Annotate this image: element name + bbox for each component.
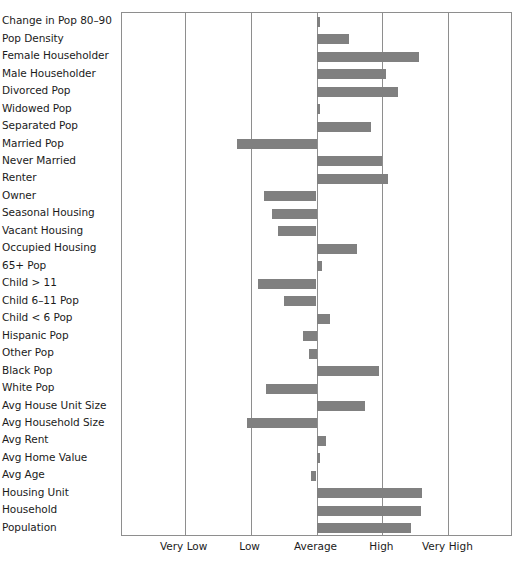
tick-label: High	[369, 539, 393, 553]
bar	[317, 523, 412, 533]
bar	[317, 436, 327, 446]
category-label: Child > 11	[2, 276, 114, 288]
bar	[317, 156, 383, 166]
tick-label: Very High	[422, 539, 473, 553]
bar	[317, 366, 380, 376]
category-label: Widowed Pop	[2, 102, 114, 114]
category-label: White Pop	[2, 381, 114, 393]
tick-label: Very Low	[160, 539, 207, 553]
bar	[317, 506, 422, 516]
bar	[317, 69, 386, 79]
bar	[303, 331, 317, 341]
category-label: Never Married	[2, 154, 114, 166]
bar	[317, 261, 323, 271]
category-label: Child 6–11 Pop	[2, 294, 114, 306]
category-label: Pop Density	[2, 32, 114, 44]
category-label: Child < 6 Pop	[2, 311, 114, 323]
category-label: Married Pop	[2, 137, 114, 149]
bar	[317, 314, 331, 324]
gridline-low	[251, 13, 252, 535]
bar	[266, 384, 316, 394]
bar	[264, 191, 316, 201]
bar	[309, 349, 317, 359]
bar	[311, 471, 317, 481]
category-label: Other Pop	[2, 346, 114, 358]
category-label: Owner	[2, 189, 114, 201]
category-label: Male Householder	[2, 67, 114, 79]
bar	[317, 244, 358, 254]
bar	[317, 453, 321, 463]
bar	[284, 296, 317, 306]
bar	[317, 104, 320, 114]
bar	[317, 17, 320, 27]
gridline-very-high	[448, 13, 449, 535]
category-label: 65+ Pop	[2, 259, 114, 271]
category-label: Hispanic Pop	[2, 329, 114, 341]
bar	[237, 139, 317, 149]
category-label: Avg House Unit Size	[2, 399, 114, 411]
category-label: Avg Household Size	[2, 416, 114, 428]
value-axis-tick-labels: Very LowLowAverageHighVery High	[121, 539, 512, 561]
category-label: Change in Pop 80–90	[2, 14, 114, 26]
bar	[317, 52, 420, 62]
category-label: Black Pop	[2, 364, 114, 376]
category-label: Avg Home Value	[2, 451, 114, 463]
chart-root: Change in Pop 80–90Pop DensityFemale Hou…	[0, 0, 522, 572]
bar	[278, 226, 317, 236]
bar	[247, 418, 317, 428]
category-label: Separated Pop	[2, 119, 114, 131]
category-label: Female Householder	[2, 49, 114, 61]
bar	[272, 209, 317, 219]
category-label: Seasonal Housing	[2, 206, 114, 218]
gridline-very-low	[185, 13, 186, 535]
tick-label: Low	[239, 539, 260, 553]
category-label: Avg Age	[2, 468, 114, 480]
bar	[317, 488, 422, 498]
category-label: Vacant Housing	[2, 224, 114, 236]
category-label: Household	[2, 503, 114, 515]
bar	[317, 34, 350, 44]
bar	[317, 174, 389, 184]
category-label: Population	[2, 521, 114, 533]
bar	[317, 401, 366, 411]
category-axis-labels: Change in Pop 80–90Pop DensityFemale Hou…	[0, 12, 118, 536]
plot-area	[121, 12, 512, 536]
category-label: Renter	[2, 171, 114, 183]
bar	[317, 87, 398, 97]
bar	[258, 279, 317, 289]
bar	[317, 122, 372, 132]
category-label: Divorced Pop	[2, 84, 114, 96]
category-label: Avg Rent	[2, 433, 114, 445]
category-label: Housing Unit	[2, 486, 114, 498]
category-label: Occupied Housing	[2, 241, 114, 253]
tick-label: Average	[294, 539, 337, 553]
